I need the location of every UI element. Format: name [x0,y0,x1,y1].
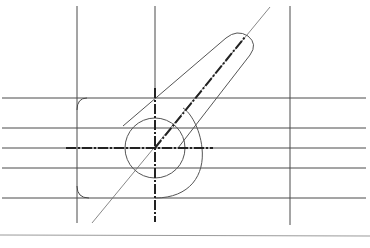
diagonal-guide [92,7,270,223]
technical-drawing [0,0,370,248]
slot-center-line [155,37,245,148]
corner-top-left [77,98,87,110]
corner-bottom-left [77,186,89,198]
bottom-border [0,235,370,236]
drawing-canvas [0,0,370,248]
outer-arc [155,108,202,198]
vertical-guides [77,6,290,225]
